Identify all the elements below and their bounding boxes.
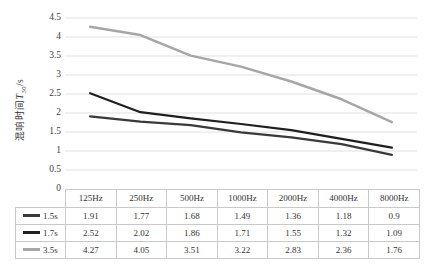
y-axis-tick-label: 0.5 xyxy=(49,164,61,174)
table-value-cell: 4.27 xyxy=(66,242,117,259)
series-label: 1.5s xyxy=(43,211,58,221)
legend-line-swatch xyxy=(23,214,40,217)
table-value-cell: 0.9 xyxy=(369,208,420,225)
table-value-cell: 1.71 xyxy=(217,225,268,242)
table-value-cell: 4.05 xyxy=(116,242,167,259)
y-axis-tick-label: 3 xyxy=(56,69,61,79)
table-col-header: 125Hz xyxy=(66,190,117,208)
y-axis-tick-label: 1 xyxy=(56,145,61,155)
table-col-header: 1000Hz xyxy=(217,190,268,208)
table-value-cell: 2.36 xyxy=(318,242,369,259)
series-line-3.5s xyxy=(90,27,392,122)
table-value-cell: 1.55 xyxy=(268,225,319,242)
table-col-header: 250Hz xyxy=(116,190,167,208)
table-row: 1.7s2.522.021.861.711.551.321.09 xyxy=(16,225,420,242)
table-row: 3.5s4.274.053.513.222.832.361.76 xyxy=(16,242,420,259)
table-value-cell: 1.32 xyxy=(318,225,369,242)
series-label: 1.7s xyxy=(43,228,58,238)
table-value-cell: 2.83 xyxy=(268,242,319,259)
table-value-cell: 1.49 xyxy=(217,208,268,225)
table-col-header: 8000Hz xyxy=(369,190,420,208)
y-axis-tick-label: 2 xyxy=(56,107,61,117)
table-value-cell: 1.77 xyxy=(116,208,167,225)
series-line-1.7s xyxy=(90,93,392,147)
y-axis-tick-label: 2.5 xyxy=(49,88,61,98)
y-axis-tick-label: 4 xyxy=(56,31,61,41)
table-row: 1.5s1.911.771.681.491.361.180.9 xyxy=(16,208,420,225)
table-value-cell: 1.86 xyxy=(167,225,218,242)
y-axis-tick-label: 4.5 xyxy=(49,12,61,22)
table-col-header: 2000Hz xyxy=(268,190,319,208)
legend-line-swatch xyxy=(23,231,40,234)
table-value-cell: 1.09 xyxy=(369,225,420,242)
series-label: 3.5s xyxy=(43,245,58,255)
legend-line-swatch xyxy=(23,248,40,251)
y-axis-title-subscript: 30 xyxy=(20,86,27,94)
y-axis-tick-label: 1.5 xyxy=(49,126,61,136)
y-axis-title-symbol: T xyxy=(15,94,25,100)
table-value-cell: 2.52 xyxy=(66,225,117,242)
table-value-cell: 1.76 xyxy=(369,242,420,259)
y-axis-title-unit: /s xyxy=(15,79,25,86)
y-axis-title: 混响时间T30/s xyxy=(12,50,26,170)
table-header-row: 125Hz250Hz500Hz1000Hz2000Hz4000Hz8000Hz xyxy=(16,190,420,208)
table-value-cell: 1.68 xyxy=(167,208,218,225)
series-label-cell: 1.7s xyxy=(16,225,66,242)
y-axis-title-text: 混响时间 xyxy=(15,99,25,141)
series-line-1.5s xyxy=(90,116,392,154)
table-value-cell: 1.18 xyxy=(318,208,369,225)
data-table: 125Hz250Hz500Hz1000Hz2000Hz4000Hz8000Hz1… xyxy=(15,189,420,259)
series-label-cell: 3.5s xyxy=(16,242,66,259)
table-col-header: 500Hz xyxy=(167,190,218,208)
table-value-cell: 1.36 xyxy=(268,208,319,225)
table-value-cell: 3.51 xyxy=(167,242,218,259)
table-corner-cell xyxy=(16,190,66,208)
chart-panel: 混响时间T30/s 00.511.522.533.544.5 125Hz250H… xyxy=(0,0,434,265)
table-value-cell: 2.02 xyxy=(116,225,167,242)
y-axis-tick-label: 3.5 xyxy=(49,50,61,60)
table-col-header: 4000Hz xyxy=(318,190,369,208)
table-value-cell: 3.22 xyxy=(217,242,268,259)
line-chart: 00.511.522.533.544.5 xyxy=(0,0,434,200)
series-label-cell: 1.5s xyxy=(16,208,66,225)
table-value-cell: 1.91 xyxy=(66,208,117,225)
